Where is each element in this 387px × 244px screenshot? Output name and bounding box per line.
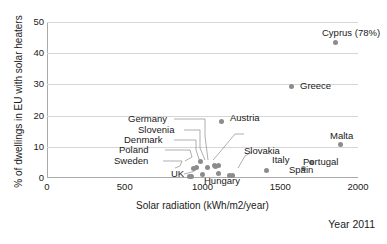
gridline <box>47 22 358 23</box>
y-tick-label: 10 <box>4 142 44 151</box>
gridline <box>47 116 358 117</box>
point-label-cyprus: Cyprus (78%) <box>322 28 380 38</box>
y-axis-title: % of dwellings in EU with solar heaters <box>13 12 24 192</box>
data-point <box>187 174 192 179</box>
gridline <box>47 53 358 54</box>
point-label-sweden: Sweden <box>114 156 148 166</box>
data-point <box>333 40 338 45</box>
point-label-poland: Poland <box>119 145 149 155</box>
point-label-uk: UK <box>171 169 184 179</box>
point-label-italy: Italy <box>272 155 289 165</box>
y-tick-label: 50 <box>4 17 44 26</box>
y-tick-label: 30 <box>4 79 44 88</box>
scatter-chart: 01020304050 0500100015002000 Cyprus (78%… <box>0 0 387 244</box>
point-label-spain: Spain <box>289 165 313 175</box>
x-tick-label: 500 <box>101 182 149 192</box>
gridline <box>47 147 358 148</box>
x-axis-title: Solar radiation (kWh/m2/year) <box>47 200 358 211</box>
data-point <box>338 142 343 147</box>
x-tick-label: 1500 <box>256 182 304 192</box>
x-tick-label: 0 <box>23 182 71 192</box>
x-tick-label: 2000 <box>334 182 382 192</box>
point-label-hungary: Hungary <box>204 176 240 186</box>
point-label-greece: Greece <box>300 81 331 91</box>
data-point <box>198 159 203 164</box>
y-tick-label: 20 <box>4 111 44 120</box>
data-point <box>264 168 269 173</box>
y-tick-label: 0 <box>4 173 44 182</box>
y-tick-label: 40 <box>4 48 44 57</box>
point-label-germany: Germany <box>128 114 167 124</box>
point-label-austria: Austria <box>230 113 260 123</box>
year-annotation: Year 2011 <box>328 218 375 230</box>
point-label-malta: Malta <box>330 131 353 141</box>
plot-area <box>47 22 358 178</box>
